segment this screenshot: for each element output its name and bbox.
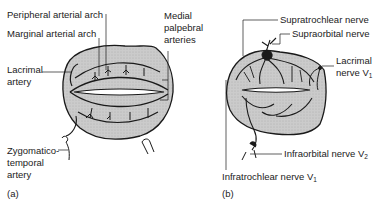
label-medial-palpebral-line2: palpebral (164, 22, 203, 33)
label-lacrimal-artery-line2: artery (7, 76, 31, 87)
label-supraorbital-nerve: Supraorbital nerve (292, 28, 370, 39)
infraorbital-text: Infraorbital nerve V (284, 148, 364, 159)
label-medial-palpebral-line3: arteries (164, 34, 196, 45)
infraorbital-subscript: 2 (364, 153, 368, 160)
label-infraorbital-nerve: Infraorbital nerve V2 (284, 148, 368, 162)
label-zygomaticotemporal-line3: artery (7, 169, 31, 180)
label-lacrimal-nerve-line2: nerve V1 (336, 67, 372, 81)
label-zygomaticotemporal-line1: Zygomatico- (7, 145, 59, 156)
label-marginal-arterial-arch: Marginal arterial arch (7, 28, 96, 39)
label-supratrochlear-nerve: Supratrochlear nerve (280, 14, 369, 25)
infratrochlear-subscript: 1 (313, 176, 317, 183)
infratrochlear-text: Infratrochlear nerve V (222, 171, 313, 182)
label-peripheral-arterial-arch: Peripheral arterial arch (7, 9, 103, 20)
lacrimal-nerve-text: nerve V (336, 67, 369, 78)
panel-tag-b: (b) (222, 188, 234, 199)
panel-tag-a: (a) (7, 188, 19, 199)
label-lacrimal-artery-line1: Lacrimal (7, 64, 43, 75)
label-zygomaticotemporal-line2: temporal (7, 157, 44, 168)
label-medial-palpebral-line1: Medial (164, 10, 192, 21)
lacrimal-nerve-subscript: 1 (369, 72, 373, 79)
label-infratrochlear-nerve: Infratrochlear nerve V1 (222, 171, 317, 185)
label-lacrimal-nerve-line1: Lacrimal (336, 55, 372, 66)
